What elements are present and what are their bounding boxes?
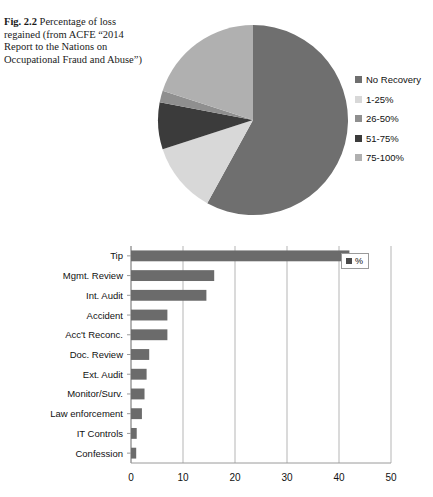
legend-swatch-icon-26-50 [355, 115, 362, 122]
pie-chart [157, 13, 357, 225]
legend-swatch-icon-no-recovery [355, 76, 362, 83]
category-label-law-enforcement: Law enforcement [50, 408, 123, 419]
legend-label-75-100: 75-100% [366, 152, 404, 163]
category-label-ext-audit: Ext. Audit [83, 369, 123, 380]
legend-label-percent: % [355, 256, 363, 266]
legend-swatch-icon-51-75 [355, 135, 362, 142]
bar-chart: ConfessionIT ControlsLaw enforcementMoni… [0, 232, 433, 497]
bar-chart-figure: ConfessionIT ControlsLaw enforcementMoni… [0, 232, 433, 497]
legend-item-75-100[interactable]: 75-100% [355, 148, 421, 168]
bar-doc-review[interactable] [131, 349, 149, 360]
pie-chart-figure: No Recovery 1-25% 26-50% 51-75% 75-100% [0, 0, 433, 232]
x-tick-label-30: 30 [281, 472, 293, 483]
bar-confession[interactable] [131, 448, 136, 459]
bar-monitor-surv[interactable] [131, 389, 145, 400]
bar-category-labels: ConfessionIT ControlsLaw enforcementMoni… [50, 250, 123, 458]
x-tick-label-20: 20 [229, 472, 241, 483]
legend-item-51-75[interactable]: 51-75% [355, 129, 421, 149]
x-tick-label-0: 0 [128, 472, 134, 483]
bar-axis-tick-labels: 01020304050 [128, 472, 397, 483]
legend-item-1-25[interactable]: 1-25% [355, 90, 421, 110]
bar-series-percent [131, 250, 349, 458]
category-label-acc-t-reconc: Acc't Reconc. [65, 329, 123, 340]
category-label-accident: Accident [87, 310, 124, 321]
bar-legend[interactable]: % [341, 253, 369, 269]
category-label-it-controls: IT Controls [77, 428, 124, 439]
legend-swatch-icon-1-25 [355, 96, 362, 103]
category-label-doc-review: Doc. Review [70, 349, 123, 360]
legend-label-26-50: 26-50% [366, 113, 399, 124]
legend-item-no-recovery[interactable]: No Recovery [355, 70, 421, 90]
legend-label-51-75: 51-75% [366, 133, 399, 144]
category-label-int-audit: Int. Audit [86, 290, 123, 301]
category-label-monitor-surv: Monitor/Surv. [67, 388, 123, 399]
bar-int-audit[interactable] [131, 290, 206, 301]
bar-acc-t-reconc[interactable] [131, 329, 167, 340]
legend-label-1-25: 1-25% [366, 94, 393, 105]
bar-tip[interactable] [131, 250, 349, 261]
x-tick-label-10: 10 [177, 472, 189, 483]
category-label-tip: Tip [110, 250, 123, 261]
legend-label-no-recovery: No Recovery [366, 74, 421, 85]
bar-mgmt-review[interactable] [131, 270, 214, 281]
x-tick-label-40: 40 [333, 472, 345, 483]
pie-slices [158, 25, 348, 215]
pie-legend: No Recovery 1-25% 26-50% 51-75% 75-100% [355, 70, 421, 168]
bar-ext-audit[interactable] [131, 369, 147, 380]
bar-it-controls[interactable] [131, 428, 137, 439]
bar-law-enforcement[interactable] [131, 408, 142, 419]
category-label-mgmt-review: Mgmt. Review [63, 270, 123, 281]
x-tick-label-50: 50 [385, 472, 397, 483]
category-label-confession: Confession [75, 448, 123, 459]
legend-item-26-50[interactable]: 26-50% [355, 109, 421, 129]
legend-swatch-icon-percent [346, 258, 352, 264]
bar-accident[interactable] [131, 310, 167, 321]
legend-swatch-icon-75-100 [355, 154, 362, 161]
